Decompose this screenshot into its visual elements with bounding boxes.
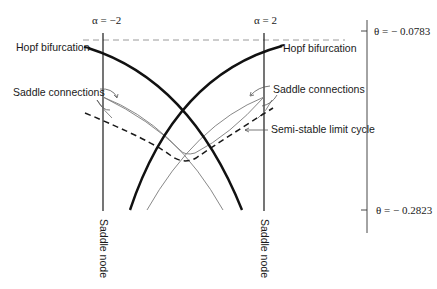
theta-bottom-label: θ = − 0.2823 <box>376 204 433 216</box>
hopf-label-left: Hopf bifurcation <box>16 41 90 53</box>
saddle-node-label-right: Saddle node <box>259 219 271 278</box>
bifurcation-diagram: α = −2 α = 2 θ = − 0.0783 θ = − 0.2823 H… <box>0 0 437 289</box>
alpha-right-label: α = 2 <box>254 14 277 26</box>
arrow-saddle-right-1 <box>251 86 270 95</box>
saddle-connection-curve-right-outer <box>147 97 264 210</box>
theta-top-label: θ = − 0.0783 <box>374 25 431 37</box>
saddle-connection-curve-left-upper <box>103 97 264 154</box>
hopf-curve-right <box>130 46 282 210</box>
hopf-curve-left <box>88 48 242 210</box>
saddle-node-label-left: Saddle node <box>98 219 110 278</box>
saddle-connections-label-right: Saddle connections <box>273 83 365 95</box>
saddle-connection-curve-left-outer <box>103 97 223 210</box>
alpha-left-label: α = −2 <box>92 14 121 26</box>
semi-stable-label: Semi-stable limit cycle <box>271 123 375 135</box>
saddle-connections-label-left: Saddle connections <box>13 86 105 98</box>
hopf-label-right: Hopf bifurcation <box>283 42 357 54</box>
